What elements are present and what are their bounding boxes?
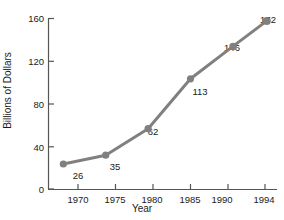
data-point-marker-1985 <box>187 75 194 82</box>
series-markers <box>60 17 271 168</box>
data-point-marker-1970 <box>60 160 67 167</box>
data-point-marker-1980 <box>145 125 152 132</box>
data-point-marker-1975 <box>102 152 109 159</box>
y-axis-line-group <box>49 18 55 189</box>
x-axis-line-group <box>48 184 277 190</box>
data-point-marker-1994 <box>263 17 271 25</box>
data-point-marker-1990 <box>229 43 236 50</box>
plot-area <box>0 0 284 220</box>
line-chart: Billions of Dollars Year 160 120 80 40 0… <box>0 0 284 220</box>
series-line <box>63 21 266 164</box>
